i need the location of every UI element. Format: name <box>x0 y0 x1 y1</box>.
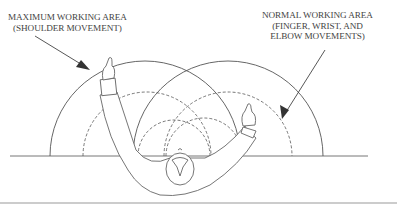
left-hand <box>102 58 114 81</box>
max-area-arc-left <box>50 61 240 156</box>
normal-area-arc-left-inner <box>138 120 210 156</box>
left-sleeve <box>100 78 117 95</box>
nose <box>178 149 182 151</box>
worker-figure <box>100 58 256 196</box>
max-area-arc-right <box>133 61 323 156</box>
maximum-arrow-icon <box>35 36 90 70</box>
working-area-diagram <box>0 0 397 208</box>
right-hand <box>242 104 256 126</box>
normal-arrow-icon <box>280 50 325 119</box>
